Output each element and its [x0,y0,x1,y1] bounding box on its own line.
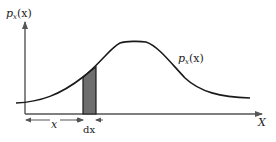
curve-label: px(x) [178,52,204,66]
pdf-diagram: px(x) px(x) X x dx [0,0,276,142]
x-axis-label: X [257,116,267,129]
y-axis-label: px(x) [6,7,32,21]
interval-label: x [51,118,58,131]
density-curve [16,41,250,103]
dx-label: dx [83,124,95,135]
probability-strip [83,67,96,114]
